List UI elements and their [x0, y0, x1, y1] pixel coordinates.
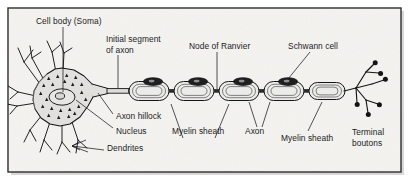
neuron-diagram-canvas: Cell body (Soma) Initial segment of axon…	[0, 0, 409, 186]
paper-grain-overlay	[8, 8, 401, 172]
neuron-diagram-figure: Cell body (Soma) Initial segment of axon…	[0, 0, 409, 186]
